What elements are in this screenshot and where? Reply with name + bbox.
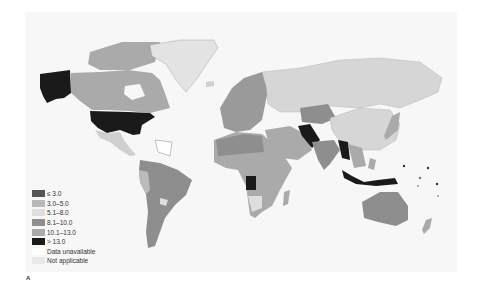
region-alaska: [40, 70, 71, 103]
legend-label: 8.1–10.0: [47, 219, 72, 226]
region-russia: [262, 58, 442, 112]
legend-item: 3.0–5.0: [32, 199, 95, 209]
region-new-zealand: [422, 218, 432, 234]
legend-item: Data unavailable: [32, 247, 95, 257]
legend-item: 5.1–8.0: [32, 208, 95, 218]
region-indonesia: [342, 170, 398, 186]
region-australia: [362, 192, 408, 226]
region-pacific-island: [427, 167, 429, 169]
legend-label: Not applicable: [47, 257, 88, 264]
region-caribbean: [155, 140, 172, 156]
region-africa-central-dark: [246, 176, 256, 190]
legend-item: > 13.0: [32, 237, 95, 247]
legend-label: > 13.0: [47, 238, 65, 245]
legend-swatch: [32, 238, 45, 245]
legend-label: 3.0–5.0: [47, 200, 69, 207]
legend-swatch: [32, 229, 45, 236]
legend-item: ≤ 3.0: [32, 189, 95, 199]
region-madagascar: [283, 190, 290, 206]
panel-label: A: [26, 275, 30, 281]
legend-swatch: [32, 219, 45, 226]
legend-item: 10.1–13.0: [32, 227, 95, 237]
legend-label: 10.1–13.0: [47, 229, 76, 236]
legend-item: 8.1–10.0: [32, 218, 95, 228]
region-pacific-island: [403, 165, 405, 167]
legend-swatch: [32, 190, 45, 197]
region-pacific-island: [419, 177, 421, 179]
legend-swatch: [32, 200, 45, 207]
region-pacific-island: [436, 183, 438, 185]
legend-item: Not applicable: [32, 256, 95, 266]
legend-label: ≤ 3.0: [47, 190, 61, 197]
legend-swatch: [32, 209, 45, 216]
region-mexico: [95, 130, 136, 156]
region-pacific-island: [417, 185, 419, 187]
region-europe: [220, 72, 270, 132]
region-canada: [71, 70, 170, 113]
legend-swatch: [32, 248, 45, 255]
region-iceland: [206, 81, 214, 87]
legend-label: 5.1–8.0: [47, 209, 69, 216]
region-pacific-island: [437, 195, 439, 197]
region-india: [312, 140, 340, 170]
legend-swatch: [32, 257, 45, 264]
region-philippines: [368, 158, 376, 170]
region-canada-arctic: [88, 42, 160, 70]
map-legend: ≤ 3.0 3.0–5.0 5.1–8.0 8.1–10.0 10.1–13.0…: [32, 189, 95, 266]
legend-label: Data unavailable: [47, 248, 95, 255]
